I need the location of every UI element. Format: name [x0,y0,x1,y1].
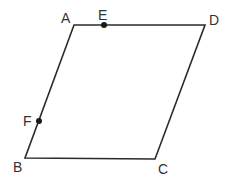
vertex-label-a: A [61,10,71,26]
parallelogram-abcd [25,25,205,159]
parallelogram-diagram: A E D F B C [0,0,230,178]
vertex-label-b: B [13,159,22,175]
point-label-f: F [23,113,32,129]
point-label-e: E [98,7,107,23]
point-f-dot [36,118,42,124]
vertex-label-d: D [209,12,219,28]
vertex-label-c: C [158,161,168,177]
